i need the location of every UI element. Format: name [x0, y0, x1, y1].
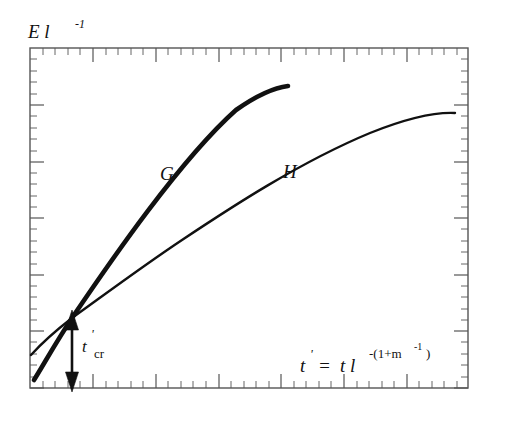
x-axis-label-equals: = [318, 355, 331, 376]
x-axis-label-exponent-inner: -1 [414, 341, 422, 352]
curve-label-g: G [160, 163, 174, 184]
x-axis-label-prime: ' [310, 346, 313, 361]
x-axis-label-exponent-main: -(1+m [369, 346, 402, 361]
x-axis-label-exponent-close: ) [426, 346, 430, 361]
x-axis-label-lhs: t [300, 355, 306, 376]
t-cr-prime: ' [91, 326, 94, 341]
x-axis-label-rhs: t l [340, 355, 355, 376]
figure-root: E l -1 G H t ' cr t ' = t l -(1+m -1 ) [0, 0, 508, 422]
t-cr-subscript: cr [94, 346, 105, 361]
y-axis-label-exponent: -1 [75, 17, 85, 31]
plot-svg: E l -1 G H t ' cr t ' = t l -(1+m -1 ) [0, 0, 508, 422]
y-axis-label: E l -1 [27, 17, 85, 42]
curve-label-h: H [282, 161, 298, 182]
y-axis-label-base: E l [27, 21, 50, 42]
